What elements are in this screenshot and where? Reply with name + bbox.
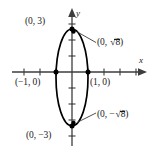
- label-top-vertex: (0, 3): [25, 17, 45, 27]
- label-lower-focus: (0, −√8): [97, 110, 128, 120]
- upper-focus-leader-line: [77, 32, 97, 43]
- label-left-vertex: (−1, 0): [15, 78, 40, 88]
- point-marker-right-vertex: [86, 70, 91, 75]
- radical-upper-focus: √8: [109, 38, 120, 48]
- x-axis-arrowhead: [138, 68, 147, 76]
- label-lower-focus-suffix: ): [125, 109, 128, 119]
- label-bottom-vertex: (0, −3): [26, 131, 51, 141]
- y-axis-arrowhead: [68, 8, 76, 17]
- radical-vinculum-upper: [114, 39, 119, 40]
- ellipse-graph-figure: x y (0, 3) (−1, 0) (1, 0) (0, −3) (0, √8…: [0, 0, 153, 155]
- radical-lower-focus: √8: [115, 110, 126, 120]
- label-right-vertex: (1, 0): [90, 78, 110, 88]
- x-axis-label: x: [139, 56, 143, 65]
- label-upper-focus-suffix: ): [120, 37, 123, 47]
- point-marker-left-vertex: [54, 70, 59, 75]
- lower-focus-leader-line: [77, 113, 96, 123]
- point-marker-upper-focus: [71, 29, 75, 33]
- radical-vinculum-lower: [120, 111, 125, 112]
- label-upper-focus: (0, √8): [97, 38, 123, 48]
- point-marker-bottom-vertex: [70, 124, 75, 129]
- y-axis-label: y: [76, 9, 80, 18]
- label-upper-focus-prefix: (0,: [97, 37, 109, 47]
- label-lower-focus-prefix: (0, −: [97, 109, 115, 119]
